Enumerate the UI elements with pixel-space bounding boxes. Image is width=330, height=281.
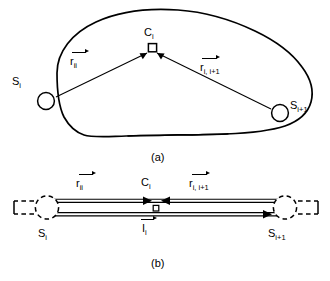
label-vector-r-i-i1-a-sub: i, i+1 [204, 67, 220, 76]
label-terminal-right-b: Si+1 [268, 228, 286, 239]
overarrow-head-r-i-i1-a [216, 55, 220, 59]
label-center-b-sub: i [149, 182, 151, 191]
label-current-i-b-sub: i [145, 228, 147, 237]
label-source-left-a: Si [12, 76, 21, 87]
caption-panel-b: (b) [151, 258, 164, 269]
overarrow-bar-r-ii-b [79, 174, 93, 175]
label-vector-r-ii-a-sub: ii [74, 61, 77, 70]
overarrow-head-r-ii-a [85, 49, 89, 53]
overarrow-head-current-i-b [153, 216, 157, 220]
conductor-arrowhead-lower-right [263, 210, 272, 218]
label-vector-r-i-i1-b-sub: i, i+1 [193, 183, 209, 192]
label-source-right-a: Si+1 [290, 100, 308, 111]
label-current-i-b-text: Ii [142, 223, 147, 234]
label-center-a-base: C [144, 26, 152, 38]
node-center-square [148, 44, 156, 52]
label-vector-r-i-i1-a-text: ri, i+1 [200, 62, 220, 73]
panel-a-group [38, 9, 313, 136]
label-vector-r-ii-b-text: rii [76, 178, 83, 189]
overarrow-bar-r-ii-a [72, 52, 86, 53]
label-terminal-right-b-sub: i+1 [275, 233, 285, 242]
label-vector-r-i-i1-b-text: ri, i+1 [189, 178, 209, 189]
panel-b-group [14, 196, 318, 219]
label-center-b: Ci [141, 177, 151, 188]
node-center-square-b [153, 205, 159, 211]
label-center-a: Ci [144, 27, 154, 38]
label-terminal-left-b-sub: i [45, 233, 47, 242]
label-source-right-a-sub: i+1 [297, 105, 307, 114]
label-terminal-left-b: Si [38, 228, 47, 239]
label-vector-r-ii-b-sub: ii [80, 183, 83, 192]
conductor-arrowhead-left-inbound [143, 197, 152, 205]
node-source-left [38, 93, 55, 110]
label-center-b-base: C [141, 176, 149, 188]
terminal-left-dashed-circle [35, 196, 58, 219]
label-center-a-sub: i [152, 32, 154, 41]
label-source-left-a-sub: i [19, 81, 21, 90]
overarrow-head-r-ii-b [92, 171, 96, 175]
conductor-arrowhead-right-inbound [161, 197, 170, 205]
terminal-right-dashed-circle [273, 196, 296, 219]
overarrow-bar-r-i-i1-b [192, 174, 207, 175]
caption-panel-a: (a) [151, 152, 164, 163]
node-source-right [272, 105, 289, 122]
overarrow-bar-r-i-i1-a [202, 58, 217, 59]
label-vector-r-ii-a-text: rii [70, 56, 77, 67]
overarrow-head-r-i-i1-b [206, 171, 210, 175]
